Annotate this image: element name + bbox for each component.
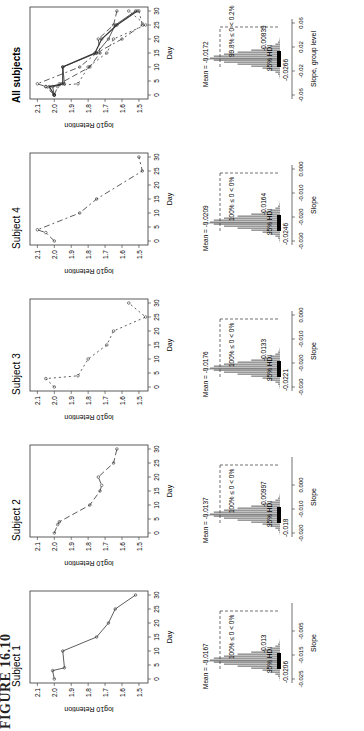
svg-text:100% ≤ 0 < 0%: 100% ≤ 0 < 0%: [228, 615, 235, 659]
figure-svg: Subject 12.12.01.91.81.71.61.50510152025…: [0, 0, 364, 731]
svg-text:2.0: 2.0: [51, 104, 58, 113]
svg-text:1.8: 1.8: [85, 104, 92, 113]
svg-text:-0.015: -0.015: [298, 646, 304, 664]
svg-text:95% HDI: 95% HDI: [266, 45, 273, 71]
svg-text:25: 25: [153, 21, 160, 29]
svg-text:2.0: 2.0: [51, 542, 58, 551]
svg-text:1.5: 1.5: [136, 688, 143, 697]
svg-text:0: 0: [153, 239, 160, 243]
svg-text:15: 15: [153, 195, 160, 203]
svg-text:Mean = -0.0167: Mean = -0.0167: [202, 643, 209, 689]
svg-text:0: 0: [153, 677, 160, 681]
svg-text:-0.030: -0.030: [298, 232, 304, 250]
svg-text:-0.0133: -0.0133: [260, 339, 267, 361]
line-panel-4: Subject 42.12.01.91.81.71.61.50510152025…: [11, 153, 174, 275]
svg-text:1.9: 1.9: [68, 104, 75, 113]
svg-text:-0.06: -0.06: [298, 88, 304, 102]
svg-text:25: 25: [153, 313, 160, 321]
svg-text:30: 30: [153, 299, 160, 307]
svg-text:100% ≤ 0 < 0%: 100% ≤ 0 < 0%: [228, 469, 235, 513]
svg-text:10: 10: [153, 355, 160, 363]
x-axis-label: Slope: [310, 196, 318, 214]
x-axis-label: Slope: [310, 342, 318, 360]
svg-text:30: 30: [153, 591, 160, 599]
svg-text:20: 20: [153, 619, 160, 627]
svg-text:2.1: 2.1: [34, 688, 41, 697]
svg-text:-0.018: -0.018: [282, 518, 289, 537]
svg-text:25: 25: [153, 459, 160, 467]
x-axis-label: Day: [166, 338, 174, 351]
line-panel-3: Subject 32.12.01.91.81.71.61.50510152025…: [11, 299, 174, 421]
svg-text:1.8: 1.8: [85, 688, 92, 697]
svg-text:-0.0266: -0.0266: [282, 59, 289, 81]
svg-text:1.8: 1.8: [85, 396, 92, 405]
svg-text:Mean = -0.0176: Mean = -0.0176: [202, 351, 209, 397]
svg-text:100% ≤ 0 < 0%: 100% ≤ 0 < 0%: [228, 323, 235, 367]
svg-text:-0.0164: -0.0164: [260, 193, 267, 215]
svg-text:-0.00997: -0.00997: [260, 481, 267, 507]
svg-text:0: 0: [153, 93, 160, 97]
svg-text:1.5: 1.5: [136, 104, 143, 113]
svg-text:15: 15: [153, 49, 160, 57]
svg-text:-0.00839: -0.00839: [260, 25, 267, 51]
svg-text:15: 15: [153, 341, 160, 349]
svg-text:1.7: 1.7: [102, 688, 109, 697]
y-axis-label: log10 Retention: [64, 121, 113, 129]
x-axis-label: Day: [166, 192, 174, 205]
svg-text:15: 15: [153, 633, 160, 641]
svg-text:10: 10: [153, 63, 160, 71]
svg-text:1.6: 1.6: [119, 542, 126, 551]
svg-text:1.5: 1.5: [136, 250, 143, 259]
svg-text:1.6: 1.6: [119, 104, 126, 113]
svg-text:20: 20: [153, 473, 160, 481]
svg-text:-0.0206: -0.0206: [282, 661, 289, 683]
y-axis-label: log10 Retention: [64, 705, 113, 713]
svg-text:0.000: 0.000: [298, 477, 304, 493]
x-axis-label: Slope: [310, 488, 318, 506]
svg-text:Mean = -0.0172: Mean = -0.0172: [202, 41, 209, 87]
svg-text:-0.025: -0.025: [298, 670, 304, 688]
svg-text:0.000: 0.000: [298, 161, 304, 177]
figure-label: FIGURE 16.10: [0, 634, 14, 729]
figure-canvas: Subject 12.12.01.91.81.71.61.50510152025…: [0, 0, 364, 731]
svg-text:5: 5: [153, 663, 160, 667]
panel-title: Subject 2: [11, 499, 22, 541]
svg-text:95% HDI: 95% HDI: [266, 647, 273, 673]
svg-text:5: 5: [153, 371, 160, 375]
svg-text:10: 10: [153, 647, 160, 655]
x-axis-label: Day: [166, 484, 174, 497]
svg-text:-0.020: -0.020: [298, 354, 304, 372]
svg-text:-0.0221: -0.0221: [282, 369, 289, 391]
svg-text:15: 15: [153, 487, 160, 495]
svg-text:2.0: 2.0: [51, 250, 58, 259]
svg-text:2.1: 2.1: [34, 250, 41, 259]
svg-text:25: 25: [153, 167, 160, 175]
svg-text:-0.010: -0.010: [298, 330, 304, 348]
svg-text:2.0: 2.0: [51, 688, 58, 697]
svg-text:1.6: 1.6: [119, 396, 126, 405]
svg-text:1.7: 1.7: [102, 542, 109, 551]
panel-title: All subjects: [11, 46, 22, 103]
svg-text:1.6: 1.6: [119, 250, 126, 259]
svg-text:2.1: 2.1: [34, 542, 41, 551]
svg-text:-0.013: -0.013: [260, 634, 267, 653]
slope-histogram-4: Mean = -0.0209100% ≤ 0 < 0%95% HDI-0.024…: [202, 161, 318, 251]
svg-text:1.8: 1.8: [85, 250, 92, 259]
svg-text:2.0: 2.0: [51, 396, 58, 405]
svg-text:1.7: 1.7: [102, 250, 109, 259]
svg-text:0: 0: [153, 385, 160, 389]
svg-text:1.9: 1.9: [68, 688, 75, 697]
svg-text:95% HDI: 95% HDI: [266, 501, 273, 527]
svg-text:95% HDI: 95% HDI: [266, 355, 273, 381]
svg-text:20: 20: [153, 35, 160, 43]
slope-histogram-5: Mean = -0.017299.8% ≤ 0 < 0.2%95% HDI-0.…: [202, 5, 318, 102]
svg-text:30: 30: [153, 7, 160, 15]
svg-text:-0.020: -0.020: [298, 524, 304, 542]
slope-histogram-3: Mean = -0.0176100% ≤ 0 < 0%95% HDI-0.022…: [202, 307, 318, 397]
svg-text:-0.0246: -0.0246: [282, 223, 289, 245]
svg-text:0.06: 0.06: [298, 17, 304, 29]
svg-text:1.9: 1.9: [68, 542, 75, 551]
svg-text:95% HDI: 95% HDI: [266, 209, 273, 235]
svg-text:20: 20: [153, 181, 160, 189]
svg-text:5: 5: [153, 517, 160, 521]
